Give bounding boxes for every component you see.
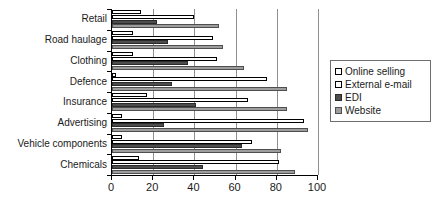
x-axis-tick — [235, 176, 236, 180]
x-axis-tick — [193, 176, 194, 180]
bar — [112, 140, 252, 144]
bar — [112, 45, 223, 49]
legend-swatch-icon — [335, 81, 342, 88]
x-axis-tick-label: 60 — [228, 181, 240, 193]
bar-group — [112, 113, 318, 134]
bar — [112, 156, 139, 160]
legend-swatch-icon — [335, 107, 342, 114]
legend-label: Online selling — [345, 66, 405, 77]
y-axis-label-vehicle-components: Vehicle components — [2, 138, 107, 149]
bar — [112, 87, 287, 91]
bar — [112, 98, 248, 102]
bar-group — [112, 92, 318, 113]
bar-group — [112, 134, 318, 155]
bar — [112, 114, 122, 118]
x-axis-tick — [111, 176, 112, 180]
legend-label: EDI — [345, 92, 362, 103]
bar — [112, 144, 242, 148]
bar-group — [112, 30, 318, 51]
legend-swatch-icon — [335, 68, 342, 75]
y-axis-label-insurance: Insurance — [2, 96, 107, 107]
bar — [112, 66, 244, 70]
legend-item-edi: EDI — [335, 91, 425, 104]
bar — [112, 52, 133, 56]
bar-chart-figure: RetailRoad haulageClothingDefenceInsuran… — [0, 0, 439, 205]
bar — [112, 36, 213, 40]
bar — [112, 103, 196, 107]
legend-label: Website — [345, 105, 381, 116]
bar — [112, 31, 133, 35]
bar — [112, 160, 279, 164]
gridline — [318, 9, 319, 175]
bar — [112, 61, 188, 65]
y-axis-label-retail: Retail — [2, 13, 107, 24]
bar — [112, 123, 164, 127]
legend-label: External e-mail — [345, 79, 412, 90]
bar — [112, 15, 194, 19]
bar — [112, 82, 172, 86]
bar — [112, 93, 147, 97]
bar-group — [112, 71, 318, 92]
plot-area — [111, 9, 318, 176]
legend-item-external-e-mail: External e-mail — [335, 78, 425, 91]
y-axis-label-chemicals: Chemicals — [2, 159, 107, 170]
x-axis-tick-label: 20 — [146, 181, 158, 193]
bar — [112, 107, 287, 111]
y-axis-label-road-haulage: Road haulage — [2, 34, 107, 45]
bar — [112, 119, 304, 123]
x-axis-tick-label: 80 — [270, 181, 282, 193]
bar — [112, 170, 295, 174]
bar — [112, 40, 168, 44]
bar — [112, 57, 217, 61]
x-axis-tick — [276, 176, 277, 180]
x-axis-tick — [317, 176, 318, 180]
bar-group — [112, 9, 318, 30]
x-axis-tick — [152, 176, 153, 180]
bar — [112, 10, 141, 14]
y-axis-label-defence: Defence — [2, 76, 107, 87]
bar — [112, 135, 122, 139]
x-axis-tick-label: 0 — [108, 181, 114, 193]
bar — [112, 77, 267, 81]
x-axis-tick-labels: 020406080100 — [111, 181, 318, 195]
bar-group — [112, 51, 318, 72]
legend-swatch-icon — [335, 94, 342, 101]
y-axis-label-advertising: Advertising — [2, 117, 107, 128]
bar — [112, 128, 308, 132]
legend-item-website: Website — [335, 104, 425, 117]
bar — [112, 24, 219, 28]
chart-legend: Online sellingExternal e-mailEDIWebsite — [330, 60, 431, 122]
y-axis-label-clothing: Clothing — [2, 55, 107, 66]
x-axis-tick-label: 100 — [308, 181, 326, 193]
bar — [112, 165, 203, 169]
legend-item-online-selling: Online selling — [335, 65, 425, 78]
bar — [112, 20, 157, 24]
bar-group — [112, 154, 318, 175]
bar — [112, 73, 116, 77]
bar — [112, 149, 281, 153]
y-axis-category-labels: RetailRoad haulageClothingDefenceInsuran… — [0, 9, 107, 175]
x-axis-tick-label: 40 — [187, 181, 199, 193]
